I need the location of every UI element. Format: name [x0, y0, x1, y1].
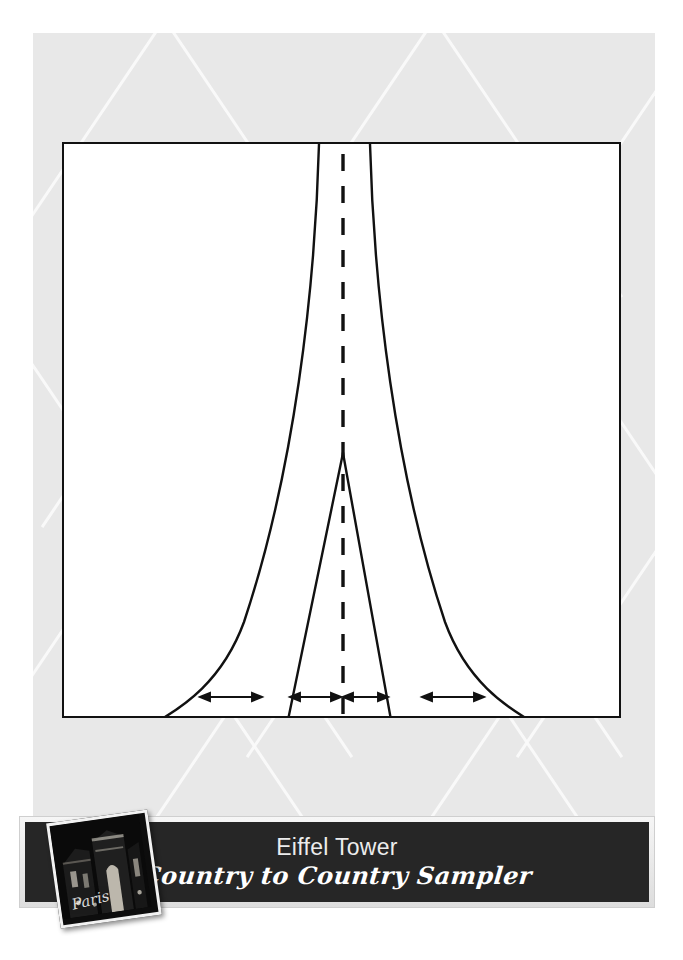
banner-inner-panel: Eiffel Tower Country to Country Sampler [25, 822, 649, 902]
inner-v-right-leg [343, 453, 391, 718]
page-root: Eiffel Tower Country to Country Sampler [0, 0, 683, 960]
banner-outer-frame: Eiffel Tower Country to Country Sampler [19, 816, 655, 908]
banner-title: Eiffel Tower [276, 835, 398, 859]
inner-v-left-leg [288, 453, 343, 718]
paris-photo-artwork: Paris [50, 814, 152, 920]
arrow-inner-left-span [290, 693, 341, 701]
pattern-frame [62, 142, 621, 718]
eiffel-tower-pattern-drawing [62, 142, 621, 718]
paris-night-photo: Paris [46, 809, 162, 928]
banner-subtitle: Country to Country Sampler [141, 863, 534, 888]
outer-right-curve [370, 144, 529, 718]
arrow-right-outer-span [422, 693, 484, 701]
arrow-left-outer-span [200, 693, 262, 701]
title-banner: Eiffel Tower Country to Country Sampler [19, 816, 655, 908]
arrow-inner-right-span [343, 693, 388, 701]
outer-left-curve [160, 144, 319, 718]
